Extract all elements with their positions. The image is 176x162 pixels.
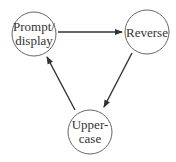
edge-reverse-to-upper bbox=[104, 53, 132, 107]
node-prompt-display: Prompt/ display bbox=[12, 12, 56, 56]
node-label: Upper- bbox=[72, 117, 109, 132]
node-label: Reverse bbox=[126, 25, 168, 40]
node-uppercase: Upper- case bbox=[68, 110, 112, 154]
state-diagram: Prompt/ display Reverse Upper- case bbox=[0, 0, 176, 162]
node-reverse: Reverse bbox=[125, 10, 169, 54]
node-label: case bbox=[79, 131, 102, 146]
node-label: display bbox=[15, 33, 53, 48]
node-label: Prompt/ bbox=[13, 19, 55, 34]
edge-upper-to-prompt bbox=[47, 57, 75, 110]
